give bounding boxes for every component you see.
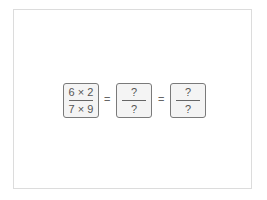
fraction-box-answer-1[interactable]: ? ? — [116, 83, 152, 118]
fraction-box-given: 6 × 2 7 × 9 — [63, 83, 99, 118]
numerator: 6 × 2 — [69, 86, 94, 98]
numerator-input[interactable]: ? — [131, 86, 137, 98]
fraction-bar — [69, 100, 93, 101]
numerator-input[interactable]: ? — [185, 86, 191, 98]
fraction-box-answer-2[interactable]: ? ? — [170, 83, 206, 118]
denominator-input[interactable]: ? — [185, 103, 191, 115]
equals-sign: = — [158, 93, 164, 105]
equals-sign: = — [104, 93, 110, 105]
denominator-input[interactable]: ? — [131, 103, 137, 115]
fraction-bar — [176, 100, 200, 101]
fraction-bar — [122, 100, 146, 101]
denominator: 7 × 9 — [69, 103, 94, 115]
